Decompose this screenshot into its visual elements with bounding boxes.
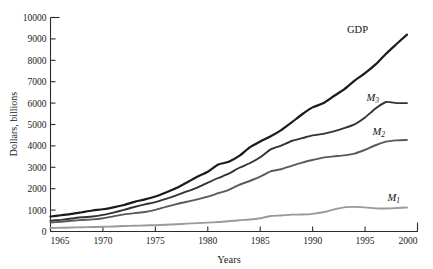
series-end-labels: GDPM3M2M1 <box>347 24 400 205</box>
y-axis-ticks <box>51 18 56 232</box>
y-tick-label: 10000 <box>23 13 47 23</box>
y-tick-label: 0 <box>42 227 47 237</box>
y-tick-label: 1000 <box>28 206 47 216</box>
series-label-m2: M2 <box>372 126 386 139</box>
x-tick-label: 1990 <box>303 236 322 246</box>
data-curves <box>51 35 408 228</box>
y-tick-label: 8000 <box>28 56 47 66</box>
y-tick-label: 7000 <box>28 77 47 87</box>
series-label-gdp: GDP <box>347 24 368 35</box>
series-label-m3: M3 <box>366 92 380 105</box>
x-tick-label: 1975 <box>146 236 165 246</box>
y-tick-label: 5000 <box>28 120 47 130</box>
x-axis-tick-labels: 19651970197519801985199019952000 <box>51 236 418 246</box>
y-tick-label: 2000 <box>28 184 47 194</box>
chart-figure: 0100020003000400050006000700080009000100… <box>0 0 433 269</box>
x-tick-label: 1970 <box>93 236 112 246</box>
money-supply-gdp-line-chart: 0100020003000400050006000700080009000100… <box>0 0 433 269</box>
y-tick-label: 9000 <box>28 34 47 44</box>
series-label-m1: M1 <box>387 192 401 205</box>
x-tick-label: 1985 <box>251 236 270 246</box>
x-axis-title: Years <box>217 254 240 265</box>
x-tick-label: 2000 <box>399 236 418 246</box>
y-tick-label: 3000 <box>28 163 47 173</box>
y-axis-title: Dollars, billions <box>8 92 19 157</box>
y-axis-tick-labels: 0100020003000400050006000700080009000100… <box>23 13 47 237</box>
y-tick-label: 6000 <box>28 99 47 109</box>
y-tick-label: 4000 <box>28 141 47 151</box>
x-tick-label: 1980 <box>198 236 217 246</box>
x-tick-label: 1965 <box>51 236 70 246</box>
x-tick-label: 1995 <box>356 236 375 246</box>
